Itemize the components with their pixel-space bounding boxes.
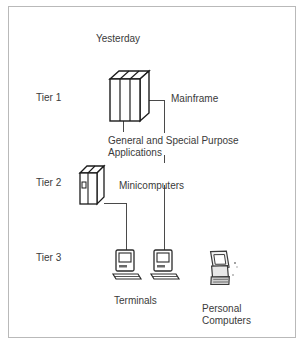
terminal-icon (112, 250, 142, 282)
applications-line-2: Applications (108, 147, 162, 159)
personal-computers-line-1: Personal (202, 303, 241, 315)
figure-frame: Yesterday Tier 1 Tier 2 Tier 3 (8, 6, 296, 338)
applications-line-1: General and Special Purpose (108, 135, 239, 147)
diagram-page: Yesterday Tier 1 Tier 2 Tier 3 (0, 0, 305, 347)
right-bus-lower-segment (164, 185, 165, 251)
left-bus-segment (126, 203, 127, 251)
tier-3-label: Tier 3 (36, 252, 61, 264)
right-bus-gap-segment (164, 155, 165, 163)
right-bus-upper-segment (164, 100, 165, 133)
terminal-icon (150, 250, 180, 282)
personal-computer-icon (205, 245, 243, 291)
tier-2-label: Tier 2 (36, 177, 61, 189)
tier-1-label: Tier 1 (36, 92, 61, 104)
minicomputer-cabinet-icon (79, 165, 111, 207)
figure-title: Yesterday (96, 33, 140, 45)
mainframe-label: Mainframe (171, 93, 218, 105)
minicomputers-label: Minicomputers (119, 180, 184, 192)
mainframe-cabinet-icon (108, 69, 154, 125)
terminals-label: Terminals (114, 295, 157, 307)
personal-computers-line-2: Computers (202, 315, 251, 327)
